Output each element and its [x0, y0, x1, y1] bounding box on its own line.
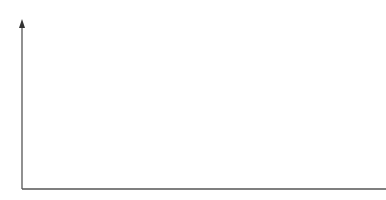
- s-curve-diagram: [0, 0, 386, 200]
- axes: [19, 19, 386, 189]
- y-axis-arrow-icon: [19, 19, 25, 28]
